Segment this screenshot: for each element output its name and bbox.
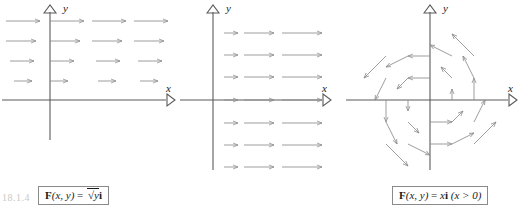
vector-arrow <box>430 45 452 56</box>
x-axis-arrowhead-icon <box>509 94 517 106</box>
x-axis-label: x <box>165 82 171 94</box>
vector-arrow <box>441 67 452 78</box>
vector-rows <box>6 21 168 81</box>
panel-sqrt-y-field: y x <box>0 0 180 209</box>
y-axis-label: y <box>225 2 231 14</box>
vector-arrow <box>452 133 474 144</box>
panel-2-plot: y x <box>178 0 348 180</box>
vector-arrow <box>386 56 408 67</box>
x-axis-label: x <box>507 82 513 94</box>
vector-arrow <box>364 56 386 78</box>
vector-arrow <box>397 78 408 89</box>
y-axis-arrowhead-icon <box>44 5 56 13</box>
vector-arrow <box>474 100 485 122</box>
y-axis-arrowhead-icon <box>207 5 219 13</box>
panel-x-i-field: y x <box>178 0 348 209</box>
panel-rotational-field: y x <box>344 0 528 209</box>
caption-1-text: F <box>45 189 52 201</box>
vector-arrow <box>463 56 474 78</box>
axes: y x <box>346 2 517 170</box>
vector-arrow <box>386 122 397 144</box>
vector-arrow <box>452 34 474 56</box>
x-axis-arrowhead-icon <box>167 94 175 106</box>
vector-arrow <box>474 122 496 144</box>
y-axis-label: y <box>62 2 68 14</box>
figure-number: 18.1.4 <box>2 192 30 203</box>
y-axis-label: y <box>442 2 448 14</box>
vector-arrow <box>408 144 430 155</box>
vector-field-figure: y x <box>0 0 528 209</box>
y-axis-arrowhead-icon <box>424 5 436 13</box>
x-axis-label: x <box>321 82 327 94</box>
x-axis-arrowhead-icon <box>323 94 331 106</box>
panel-3-plot: y x <box>344 0 528 180</box>
panel-1-plot: y x <box>0 0 180 180</box>
vector-arrow <box>452 111 463 122</box>
vector-arrow <box>375 78 386 100</box>
caption-panel-1: F(x, y) = √yi <box>38 186 109 205</box>
vector-arrow <box>408 122 419 133</box>
axes: y x <box>2 2 175 140</box>
vector-arrow <box>386 144 408 166</box>
